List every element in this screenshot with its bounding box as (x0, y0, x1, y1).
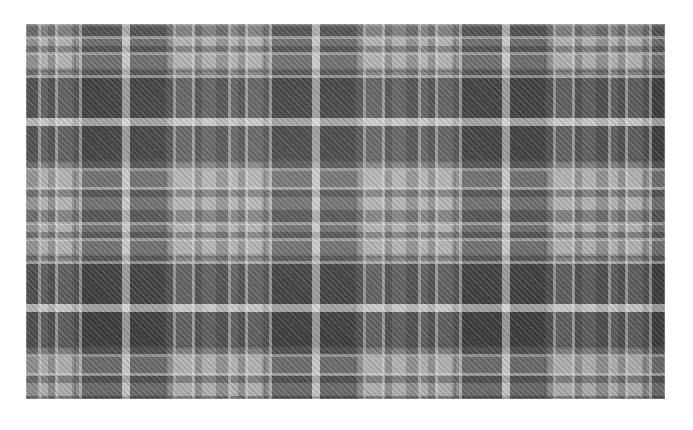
weft-tone-bands (26, 24, 665, 399)
warp-grid-rules (26, 24, 665, 399)
twill-texture (26, 24, 665, 399)
image-canvas: Close-up photograph of a grey checked pl… (0, 0, 693, 430)
weft-grid-rules (26, 24, 665, 399)
warp-tone-bands (26, 24, 665, 399)
weft-pinstripes (26, 24, 665, 399)
swatch-edge-shading (26, 24, 665, 399)
warp-pinstripes (26, 24, 665, 399)
yarn-grain-texture (26, 24, 665, 399)
fabric-swatch (26, 24, 665, 399)
lighting-vignette (26, 24, 665, 399)
